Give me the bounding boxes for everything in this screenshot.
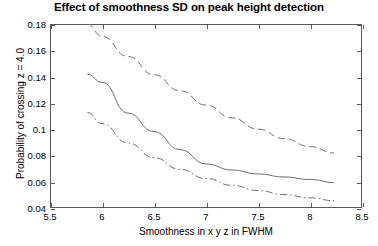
plot-area bbox=[50, 24, 362, 208]
y-tick-mark bbox=[51, 209, 55, 210]
curve-mean-estimate bbox=[87, 74, 333, 182]
y-tick-label: 0.06 bbox=[28, 176, 47, 187]
x-tick-label: 5.5 bbox=[43, 211, 56, 222]
y-tick-mark bbox=[357, 209, 361, 210]
x-tick-labels: 5.566.577.588.5 bbox=[50, 211, 362, 225]
y-tick-label: 0.1 bbox=[33, 124, 46, 135]
y-tick-label: 0.08 bbox=[28, 150, 47, 161]
page-title: Effect of smoothness SD on peak height d… bbox=[0, 1, 378, 13]
curve-upper-bound bbox=[87, 24, 333, 153]
x-tick-label: 6 bbox=[99, 211, 104, 222]
chart-figure: Effect of smoothness SD on peak height d… bbox=[0, 0, 378, 246]
x-tick-label: 7.5 bbox=[251, 211, 264, 222]
x-axis-label: Smoothness in x y z in FWHM bbox=[50, 226, 362, 237]
x-tick-label: 7 bbox=[203, 211, 208, 222]
y-tick-label: 0.16 bbox=[28, 45, 47, 56]
y-tick-labels: 0.040.060.080.10.120.140.160.18 bbox=[8, 24, 46, 208]
x-tick-label: 6.5 bbox=[147, 211, 160, 222]
curve-lower-bound bbox=[87, 113, 333, 201]
x-tick-label: 8.5 bbox=[355, 211, 368, 222]
y-tick-label: 0.18 bbox=[28, 19, 47, 30]
y-tick-label: 0.12 bbox=[28, 97, 47, 108]
x-tick-mark bbox=[363, 203, 364, 207]
x-tick-mark bbox=[363, 25, 364, 29]
y-tick-label: 0.14 bbox=[28, 71, 47, 82]
x-tick-label: 8 bbox=[307, 211, 312, 222]
chart-curves bbox=[50, 24, 362, 208]
